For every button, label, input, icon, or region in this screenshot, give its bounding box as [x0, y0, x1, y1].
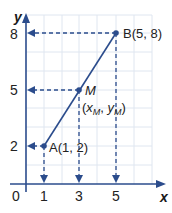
- y-tick-2: 2: [10, 138, 18, 154]
- point-m: [76, 87, 82, 93]
- y-tick-5: 5: [10, 82, 18, 98]
- label-point-m: M: [85, 83, 96, 98]
- origin-label: 0: [12, 188, 20, 204]
- y-tick-8: 8: [10, 26, 18, 42]
- x-tick-5: 5: [112, 188, 120, 204]
- label-point-a: A(1, 2): [49, 140, 88, 155]
- x-tick-1: 1: [40, 188, 48, 204]
- midpoint-diagram: A(1, 2) B(5, 8) M (xM, yM) 8 5 2 0 1 3 5…: [0, 0, 172, 213]
- x-tick-3: 3: [75, 188, 83, 204]
- point-a: [41, 143, 47, 149]
- point-b: [113, 30, 119, 36]
- label-point-m-coords: (xM, yM): [82, 100, 126, 117]
- y-axis-label: y: [13, 9, 23, 25]
- x-axis-label: x: [159, 189, 169, 205]
- label-point-b: B(5, 8): [123, 26, 162, 41]
